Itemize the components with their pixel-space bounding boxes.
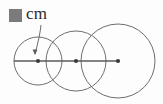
figure-canvas [0, 0, 163, 104]
unit-label: cm [26, 4, 47, 24]
arrowhead-icon [33, 50, 38, 56]
geometry-figure: cm [0, 0, 163, 104]
center-1 [36, 59, 40, 63]
redacted-value-square-icon [9, 9, 22, 22]
center-3 [116, 59, 120, 63]
leader-group [33, 25, 41, 55]
center-2 [74, 59, 78, 63]
